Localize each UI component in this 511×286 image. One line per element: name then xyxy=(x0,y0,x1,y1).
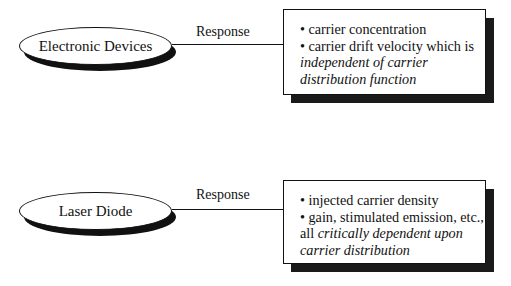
response-label: Response xyxy=(196,187,250,203)
box-line: • injected carrier density xyxy=(300,192,485,209)
response-connector xyxy=(172,44,284,45)
box-line: all critically dependent upon xyxy=(300,225,485,242)
box-line: carrier distribution xyxy=(300,242,485,259)
laser-diode-node: Laser Diode xyxy=(19,192,172,230)
box-line: • carrier concentration xyxy=(300,21,485,38)
response-box: • carrier concentration • carrier drift … xyxy=(283,9,486,95)
box-line: • gain, stimulated emission, etc., xyxy=(300,209,485,226)
node-label: Electronic Devices xyxy=(39,38,153,55)
box-line: • carrier drift velocity which is xyxy=(300,38,485,55)
response-connector xyxy=(172,209,284,210)
electronic-devices-node: Electronic Devices xyxy=(19,27,172,65)
response-box: • injected carrier density • gain, stimu… xyxy=(283,180,486,264)
box-line: distribution function xyxy=(300,71,485,88)
box-line: independent of carrier xyxy=(300,54,485,71)
node-label: Laser Diode xyxy=(59,203,133,220)
response-label: Response xyxy=(196,24,250,40)
